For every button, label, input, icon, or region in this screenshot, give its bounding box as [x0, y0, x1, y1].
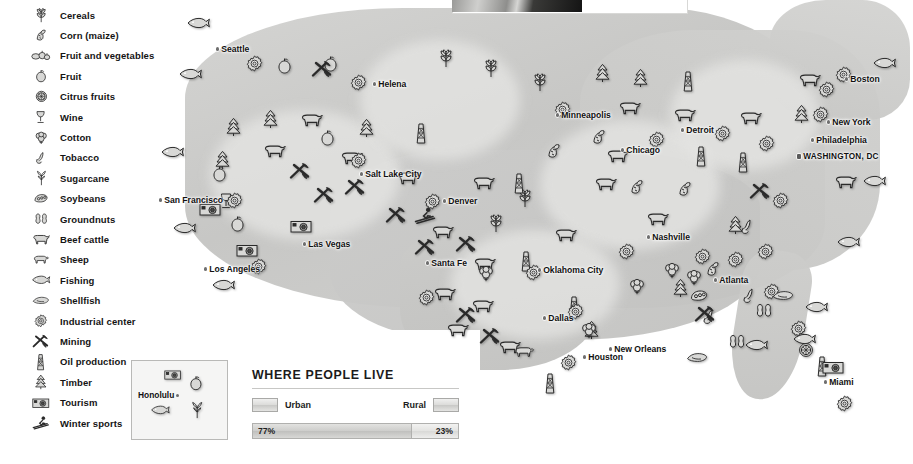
legend-item-label: Shellfish [54, 295, 101, 306]
city-label-minneapolis[interactable]: Minneapolis [556, 110, 611, 120]
beef-cattle-icon [471, 175, 495, 190]
legend-item-citrus-fruits[interactable]: Citrus fruits [28, 87, 115, 107]
beef-cattle-icon [445, 322, 469, 337]
oil-production-icon [681, 70, 695, 92]
legend-item-soybeans[interactable]: Soybeans [28, 189, 106, 209]
legend-item-sugarcane[interactable]: Sugarcane [28, 168, 109, 188]
city-label-denver[interactable]: Denver [443, 196, 477, 206]
city-label-helena[interactable]: Helena [373, 79, 406, 89]
legend-item-label: Sheep [54, 254, 89, 265]
top-photo-thumbnail [452, 0, 582, 12]
industrial-center-icon [618, 243, 635, 260]
urban-swatch [252, 398, 278, 412]
legend-item-timber[interactable]: Timber [28, 372, 92, 392]
city-label-seattle[interactable]: Seattle [216, 44, 249, 54]
divider [252, 388, 459, 389]
legend-item-shellfish[interactable]: Shellfish [28, 291, 101, 311]
legend-item-oil-production[interactable]: Oil production [28, 352, 126, 372]
legend-item-tobacco[interactable]: Tobacco [28, 148, 99, 168]
honolulu-inset[interactable]: Honolulu [131, 360, 228, 440]
citrus-fruits-icon [798, 342, 814, 358]
mining-icon [313, 186, 335, 204]
rural-label: Rural [403, 400, 426, 410]
city-marker-dot [159, 198, 162, 201]
legend-item-label: Industrial center [54, 316, 136, 327]
legend-item-fruit-and-vegetables[interactable]: Fruit and vegetables [28, 46, 154, 66]
legend-item-label: Fruit [54, 71, 82, 82]
legend-item-label: Tourism [54, 397, 97, 408]
legend-item-label: Wine [54, 112, 83, 123]
urban-rural-bar[interactable]: 77% 23% [252, 423, 459, 439]
city-label-detroit[interactable]: Detroit [681, 125, 714, 135]
corn-maize-icon [628, 178, 646, 196]
corn-maize-icon [676, 180, 694, 198]
timber-icon [358, 118, 375, 138]
groundnuts-icon [28, 209, 54, 229]
city-name: Las Vegas [308, 239, 350, 249]
legend-item-corn-maize[interactable]: Corn (maize) [28, 25, 119, 45]
legend-item-industrial-center[interactable]: Industrial center [28, 311, 136, 331]
industrial-center-icon [226, 192, 243, 209]
legend-item-beef-cattle[interactable]: Beef cattle [28, 229, 109, 249]
city-label-miami[interactable]: Miami [824, 377, 854, 387]
urban-legend-entry: Urban [252, 398, 311, 412]
city-label-washington-dc[interactable]: WASHINGTON, DC [797, 152, 879, 161]
legend-item-label: Timber [54, 377, 92, 388]
rural-swatch [433, 398, 459, 412]
city-marker-dot [303, 242, 306, 245]
timber-icon [632, 68, 649, 88]
beef-cattle-icon [262, 143, 286, 158]
cereals-icon [531, 72, 549, 92]
legend-item-fishing[interactable]: Fishing [28, 270, 94, 290]
city-label-salt-lake-city[interactable]: Salt Lake City [360, 169, 422, 179]
city-label-los-angeles[interactable]: Los Angeles [204, 264, 260, 274]
city-label-san-francisco[interactable]: San Francisco [159, 195, 223, 205]
legend-item-cotton[interactable]: Cotton [28, 127, 91, 147]
cereals-icon [28, 5, 54, 25]
legend-item-cereals[interactable]: Cereals [28, 5, 95, 25]
fruit-icon [320, 129, 335, 146]
oil-production-icon [736, 151, 750, 173]
legend-item-label: Beef cattle [54, 234, 109, 245]
legend-item-mining[interactable]: Mining [28, 331, 91, 351]
city-label-las-vegas[interactable]: Las Vegas [303, 239, 350, 249]
industrial-center-icon [757, 243, 774, 260]
city-label-oklahoma-city[interactable]: Oklahoma City [538, 265, 603, 275]
industrial-center-icon [418, 289, 435, 306]
city-label-nashville[interactable]: Nashville [647, 232, 690, 242]
tourism-icon [28, 393, 54, 413]
legend-item-tourism[interactable]: Tourism [28, 393, 97, 413]
industrial-center-icon [836, 395, 853, 412]
city-label-chicago[interactable]: Chicago [621, 145, 660, 155]
city-label-new-york[interactable]: New York [827, 117, 871, 127]
legend-item-sheep[interactable]: Sheep [28, 250, 89, 270]
legend-item-groundnuts[interactable]: Groundnuts [28, 209, 115, 229]
legend-item-winter-sports[interactable]: Winter sports [28, 413, 122, 433]
city-marker-dot [621, 148, 624, 151]
industrial-center-icon [758, 135, 775, 152]
city-label-boston[interactable]: Boston [845, 74, 880, 84]
fishing-icon [178, 68, 202, 80]
city-label-santa-fe[interactable]: Santa Fe [426, 258, 467, 268]
city-label-atlanta[interactable]: Atlanta [714, 275, 748, 285]
oil-production-icon [694, 145, 708, 167]
oil-production-icon [28, 352, 54, 372]
tourism-icon [290, 219, 312, 233]
mining-icon [414, 238, 436, 256]
legend-item-fruit[interactable]: Fruit [28, 66, 82, 86]
sheep-icon [513, 345, 535, 359]
city-label-dallas[interactable]: Dallas [543, 313, 574, 323]
city-name: WASHINGTON, DC [803, 152, 878, 161]
city-marker-dot [426, 261, 429, 264]
fishing-icon [744, 339, 768, 351]
cotton-icon [685, 269, 703, 286]
city-dot [176, 394, 179, 397]
city-label-philadelphia[interactable]: Philadelphia [811, 135, 867, 145]
beef-cattle-icon [553, 227, 577, 242]
city-marker-dot [360, 172, 363, 175]
city-marker-dot [443, 199, 446, 202]
industrial-center-icon [818, 81, 835, 98]
city-label-new-orleans[interactable]: New Orleans [609, 344, 666, 354]
tobacco-icon [740, 218, 756, 236]
legend-item-wine[interactable]: Wine [28, 107, 83, 127]
